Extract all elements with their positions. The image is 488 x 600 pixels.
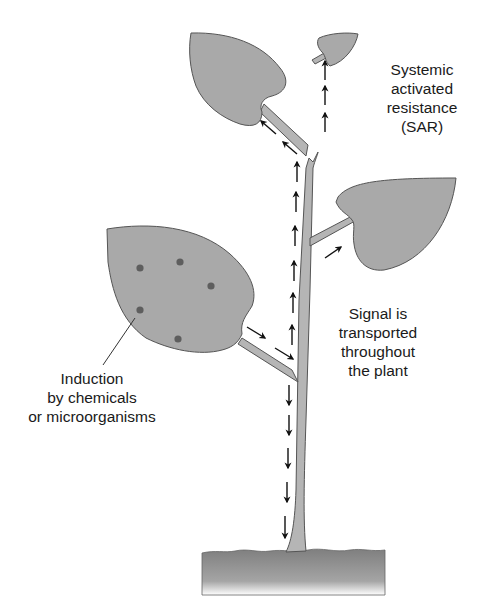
main-stem (286, 152, 318, 552)
right-leaf (336, 178, 456, 270)
branch-infected-leaf (238, 338, 298, 382)
infected-lower-left-leaf (107, 226, 254, 352)
signal-transport-label: Signal is transported throughout the pla… (318, 304, 438, 380)
induction-pointer-line (103, 318, 135, 365)
soil-ground (202, 549, 385, 595)
sar-label: Systemic activated resistance (SAR) (367, 60, 477, 136)
branch-upper-left (260, 104, 308, 156)
branch-right (310, 216, 355, 246)
induction-label: Induction by chemicals or microorganisms (12, 369, 172, 426)
top-small-leaf (318, 33, 358, 66)
